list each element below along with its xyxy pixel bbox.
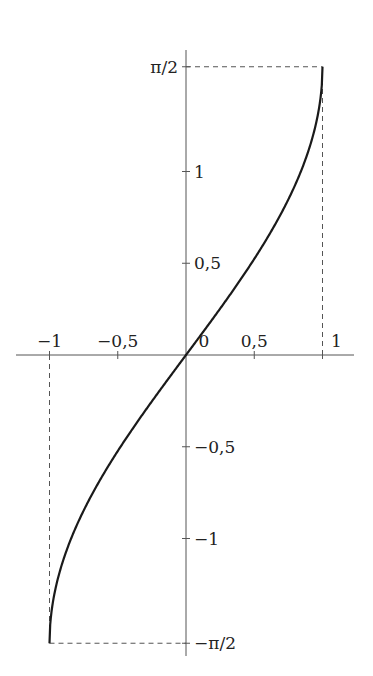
y-tick-label: −0,5 [194,437,235,457]
y-tick-label: −1 [194,529,219,549]
x-tick-label: −0,5 [97,331,138,351]
y-tick-label: 1 [194,162,205,182]
x-tick-label: −1 [37,331,62,351]
x-tick-label: 0 [199,331,210,351]
axes [16,50,354,656]
arcsin-plot: −1−0,500,51π/210,5−0,5−1−π/2 [0,0,373,676]
y-tick-label: −π/2 [194,633,236,653]
y-tick-label: π/2 [150,57,178,77]
x-tick-label: 0,5 [241,331,268,351]
x-tick-label: 1 [331,331,342,351]
y-tick-label: 0,5 [194,253,221,273]
